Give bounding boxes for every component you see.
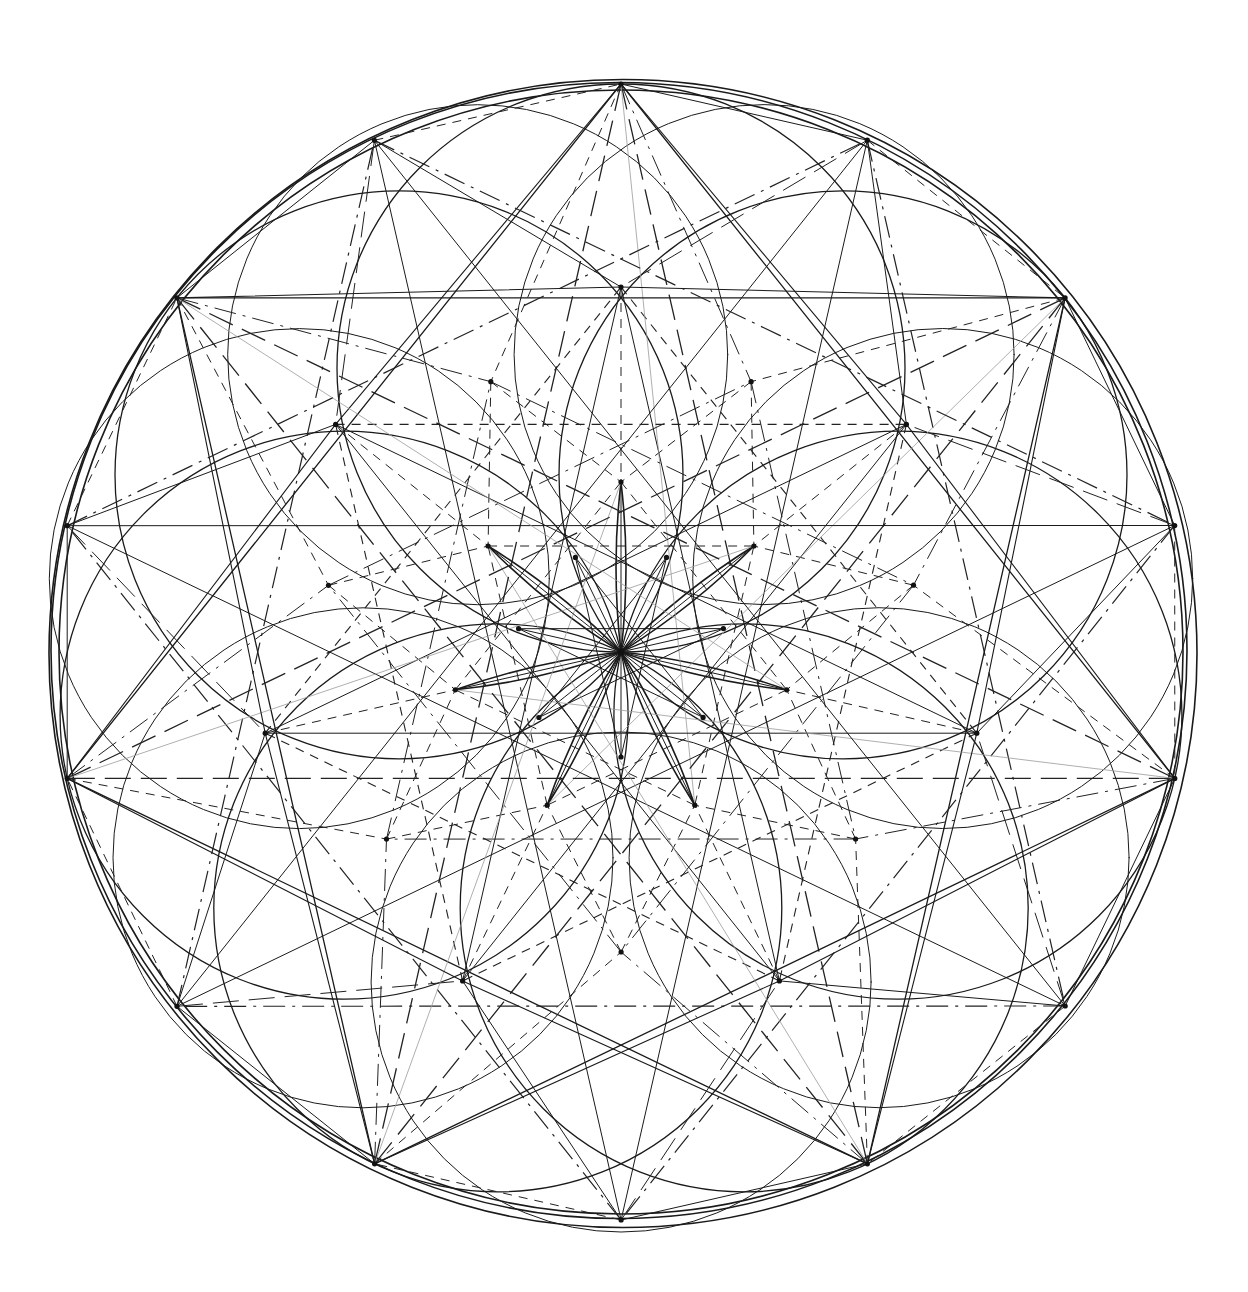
radial-line [177,981,463,1006]
vertex-point [619,949,624,954]
mid-star-edge-b [491,382,914,586]
vertex-point [333,422,338,427]
vertex-point [701,715,706,720]
star-7-2-edge-b [67,140,867,526]
vertex-point [1172,523,1177,528]
vertex-point [372,1161,377,1166]
inner-line [265,690,455,733]
vertex-point [618,284,623,289]
radial-line [374,140,621,287]
inner-web [539,546,754,718]
vertex-point [865,138,870,143]
mid-star-edge-b [329,382,752,586]
vertex-point [1063,295,1068,300]
rim-chord [621,1164,867,1220]
star-7-3-edge [375,298,1066,1164]
vertex-point [486,543,491,548]
vertex-point [777,978,782,983]
star-7-3-edge [621,84,867,1164]
faint-guide [547,298,1065,805]
secondary-circle [514,105,1014,605]
sacred-geometry-svg [0,0,1248,1292]
radial-line [621,140,867,287]
vertex-point [65,523,70,528]
radial-line [779,981,1065,1006]
vertex-point [326,583,331,588]
radial-line [856,839,868,1164]
center-point [618,649,625,656]
inner-line [621,805,695,952]
radial-line [779,778,1174,981]
star-7-2-edge [67,84,621,778]
inner-line [387,805,548,839]
star-7-2-edge-b [621,526,1175,1221]
inner-web [519,629,787,690]
vertex-point [749,379,754,384]
vertex-point [1172,776,1177,781]
vertex-point [453,687,458,692]
faint-guide [375,482,621,1164]
star-7-3-edge [177,298,1175,779]
vertex-point [618,754,623,759]
mid-star-edge [336,424,463,981]
vertex-point [516,626,521,631]
radial-line [906,424,1174,778]
radial-line [491,84,621,382]
radial-line [914,298,1066,585]
star-7-3-edge-b [374,140,1065,1006]
geometry-drawing [0,0,1248,1292]
star-7-2-edge [867,298,1065,1164]
vertex-point [911,583,916,588]
star-7-2-edge [375,778,1175,1163]
vertex-point [904,422,909,427]
mid-star-edge [621,287,977,733]
star-7-3-edge [375,84,621,1164]
inner-line [695,805,856,839]
rim-chord [177,1006,375,1164]
radial-line [375,839,387,1164]
vertex-point [573,555,578,560]
vertex-point [372,138,377,143]
mid-star-edge [463,287,621,981]
inner-line [695,805,780,981]
inner-line [547,805,621,952]
vertex-point [618,479,623,484]
vertex-point [853,836,858,841]
vertex-point [384,837,389,842]
inner-line [488,382,491,546]
inner-web [455,629,723,690]
radial-line [375,981,780,1164]
vertex-point [974,731,979,736]
star-7-3-edge [177,298,868,1164]
rim-chord [1065,778,1175,1006]
mid-star-edge [779,424,906,981]
inner-line [787,690,977,733]
radial-line [177,298,329,585]
radial-line [867,140,906,424]
vertex-point [488,379,493,384]
radial-line [67,778,462,981]
star-7-3-edge [67,298,1065,779]
vertex-point [263,731,268,736]
vertex-point [619,1217,624,1222]
inner-line [463,805,548,981]
radial-line [977,733,1065,1006]
radial-line [177,287,621,298]
vertex-point [460,978,465,983]
vertex-point [1063,1003,1068,1008]
vertex-point [174,1004,179,1009]
star-7-2-edge-b [177,140,374,1006]
vertex-point [174,295,179,300]
radial-line [67,424,335,778]
secondary-circle [228,105,728,605]
rim-chord [1065,298,1175,526]
radial-line [621,84,751,382]
vertex-point [618,81,623,86]
star-7-2-edge [621,84,1175,778]
inner-line [621,382,751,482]
vertex-point [784,687,789,692]
mid-star-edge [265,287,621,733]
rim-chord [177,140,375,298]
vertex-point [692,803,697,808]
inner-line [329,546,489,585]
